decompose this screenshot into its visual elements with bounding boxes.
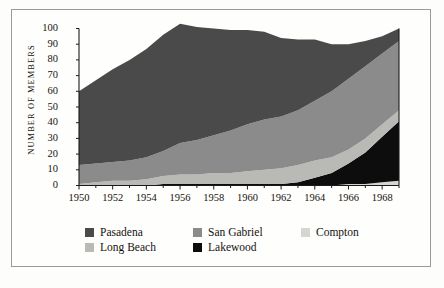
legend-swatch-icon <box>301 228 310 237</box>
x-tick-label: 1956 <box>162 192 198 203</box>
x-tick-label: 1954 <box>128 192 164 203</box>
legend-swatch-icon <box>193 228 202 237</box>
y-tick-label: 30 <box>38 133 58 144</box>
y-tick-label: 100 <box>38 23 58 34</box>
area-series-compton <box>79 181 399 186</box>
legend-item-long-beach[interactable]: Long Beach <box>85 241 156 253</box>
area-series-san-gabriel <box>79 41 399 184</box>
y-tick-label: 20 <box>38 149 58 160</box>
y-tick-label: 90 <box>38 39 58 50</box>
area-series-pasadena <box>79 24 399 165</box>
area-series-long-beach <box>79 110 399 185</box>
x-tick-label: 1964 <box>297 192 333 203</box>
legend-label: Compton <box>316 226 359 238</box>
chart-legend: PasadenaSan GabrielComptonLong BeachLake… <box>85 226 405 260</box>
x-tick-label: 1966 <box>330 192 366 203</box>
y-tick-label: 80 <box>38 54 58 65</box>
x-tick-label: 1950 <box>61 192 97 203</box>
y-tick-label: 0 <box>38 180 58 191</box>
axes <box>76 29 399 190</box>
legend-item-lakewood[interactable]: Lakewood <box>193 241 257 253</box>
y-tick-label: 50 <box>38 102 58 113</box>
legend-swatch-icon <box>193 243 202 252</box>
x-tick-label: 1958 <box>196 192 232 203</box>
y-tick-label: 60 <box>38 86 58 97</box>
legend-item-pasadena[interactable]: Pasadena <box>85 226 143 238</box>
y-tick-label: 40 <box>38 117 58 128</box>
legend-item-compton[interactable]: Compton <box>301 226 359 238</box>
legend-label: Pasadena <box>100 226 143 238</box>
y-axis-tick-labels: 1009080706050403020100 <box>34 0 58 200</box>
legend-label: San Gabriel <box>208 226 263 238</box>
legend-label: Lakewood <box>208 241 257 253</box>
x-tick-label: 1952 <box>95 192 131 203</box>
x-tick-label: 1968 <box>364 192 400 203</box>
area-series-lakewood <box>79 121 399 185</box>
x-tick-label: 1962 <box>263 192 299 203</box>
y-tick-label: 10 <box>38 164 58 175</box>
x-tick-label: 1960 <box>229 192 265 203</box>
y-tick-label: 70 <box>38 70 58 81</box>
legend-label: Long Beach <box>100 241 156 253</box>
stacked-area-chart: NUMBER OF MEMBERS 1009080706050403020100… <box>0 0 444 288</box>
legend-swatch-icon <box>85 243 94 252</box>
legend-swatch-icon <box>85 228 94 237</box>
legend-item-san-gabriel[interactable]: San Gabriel <box>193 226 263 238</box>
